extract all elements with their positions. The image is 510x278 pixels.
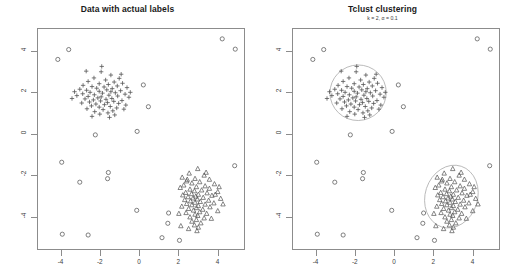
data-point-outliers bbox=[422, 211, 426, 215]
plot-canvas: Data with actual labels 420-2-4-4-2024 T… bbox=[0, 0, 510, 278]
data-point-outliers bbox=[177, 238, 181, 242]
x-axis-tick-label: 2 bbox=[170, 258, 186, 265]
x-axis-tick bbox=[433, 250, 434, 256]
x-axis-tick-label: 0 bbox=[131, 258, 147, 265]
x-axis-tick bbox=[394, 250, 395, 256]
data-point-cluster-2 bbox=[461, 198, 465, 202]
data-point-cluster-2 bbox=[184, 210, 188, 214]
data-point-cluster-1 bbox=[85, 107, 89, 111]
data-point-cluster-1 bbox=[78, 87, 82, 91]
panel-subtitle: k = 2, α = 0.1 bbox=[255, 15, 510, 21]
data-point-cluster-1 bbox=[357, 102, 361, 106]
data-point-cluster-2 bbox=[216, 189, 220, 193]
data-point-cluster-2 bbox=[192, 189, 196, 193]
data-point-cluster-1 bbox=[99, 70, 103, 74]
plot-area bbox=[38, 29, 244, 249]
data-point-cluster-1 bbox=[112, 99, 116, 103]
data-point-cluster-2 bbox=[449, 217, 453, 221]
data-point-cluster-1 bbox=[70, 96, 74, 100]
data-point-cluster-2 bbox=[190, 181, 194, 185]
data-point-cluster-2 bbox=[451, 166, 455, 170]
data-point-cluster-1 bbox=[346, 98, 350, 102]
x-axis-tick-label: 4 bbox=[465, 258, 481, 265]
data-point-cluster-2 bbox=[212, 201, 216, 205]
data-point-cluster-1 bbox=[360, 88, 364, 92]
data-point-cluster-1 bbox=[127, 95, 131, 99]
data-point-outliers bbox=[146, 105, 150, 109]
data-point-outliers bbox=[233, 47, 237, 51]
data-point-cluster-2 bbox=[195, 197, 199, 201]
plot-frame bbox=[37, 28, 245, 250]
data-point-cluster-1 bbox=[93, 109, 97, 113]
data-point-cluster-1 bbox=[90, 114, 94, 118]
data-point-cluster-2 bbox=[459, 170, 463, 174]
data-point-outliers bbox=[475, 37, 479, 41]
data-point-cluster-1 bbox=[378, 92, 382, 96]
data-point-cluster-1 bbox=[367, 99, 371, 103]
data-point-outliers bbox=[105, 177, 109, 181]
data-point-cluster-2 bbox=[197, 179, 201, 183]
data-point-cluster-1 bbox=[101, 107, 105, 111]
data-point-cluster-1 bbox=[342, 100, 346, 104]
data-point-cluster-1 bbox=[333, 87, 337, 91]
data-point-cluster-2 bbox=[459, 211, 463, 215]
data-point-cluster-1 bbox=[105, 88, 109, 92]
y-axis-tick bbox=[286, 51, 292, 52]
data-point-cluster-2 bbox=[206, 198, 210, 202]
data-point-outliers bbox=[488, 47, 492, 51]
data-point-cluster-2 bbox=[182, 183, 186, 187]
data-point-cluster-1 bbox=[115, 84, 119, 88]
data-point-cluster-1 bbox=[86, 79, 90, 83]
data-point-outliers bbox=[166, 221, 170, 225]
data-point-cluster-1 bbox=[123, 92, 127, 96]
data-point-cluster-1 bbox=[383, 90, 387, 94]
data-point-cluster-1 bbox=[89, 104, 93, 108]
data-point-outliers bbox=[401, 105, 405, 109]
x-axis-tick-label: 0 bbox=[386, 258, 402, 265]
x-axis-tick bbox=[139, 250, 140, 256]
data-point-cluster-1 bbox=[96, 96, 100, 100]
data-point-cluster-1 bbox=[81, 83, 85, 87]
data-point-outliers bbox=[60, 232, 64, 236]
data-point-outliers bbox=[360, 177, 364, 181]
data-point-cluster-1 bbox=[92, 76, 96, 80]
data-point-cluster-1 bbox=[113, 113, 117, 117]
data-point-cluster-2 bbox=[467, 182, 471, 186]
data-point-cluster-1 bbox=[350, 86, 354, 90]
data-point-cluster-1 bbox=[370, 106, 374, 110]
data-point-cluster-1 bbox=[361, 111, 365, 115]
data-point-cluster-1 bbox=[352, 82, 356, 86]
data-point-outliers bbox=[220, 37, 224, 41]
data-point-cluster-2 bbox=[443, 215, 447, 219]
data-point-cluster-2 bbox=[473, 196, 477, 200]
data-point-cluster-1 bbox=[109, 73, 113, 77]
y-axis-tick bbox=[31, 134, 37, 135]
data-point-cluster-1 bbox=[366, 109, 370, 113]
data-point-cluster-1 bbox=[111, 109, 115, 113]
data-point-cluster-2 bbox=[193, 176, 197, 180]
x-axis-tick-label: 4 bbox=[210, 258, 226, 265]
data-point-cluster-1 bbox=[125, 85, 129, 89]
data-point-cluster-1 bbox=[361, 82, 365, 86]
data-point-outliers bbox=[432, 238, 436, 242]
data-point-cluster-1 bbox=[371, 101, 375, 105]
data-point-cluster-2 bbox=[194, 217, 198, 221]
data-point-cluster-1 bbox=[120, 81, 124, 85]
data-point-cluster-2 bbox=[450, 197, 454, 201]
data-point-cluster-2 bbox=[196, 166, 200, 170]
data-point-cluster-2 bbox=[194, 184, 198, 188]
data-point-cluster-1 bbox=[97, 82, 101, 86]
data-point-cluster-1 bbox=[368, 113, 372, 117]
data-point-cluster-1 bbox=[106, 111, 110, 115]
data-point-cluster-2 bbox=[177, 211, 181, 215]
data-point-outliers bbox=[160, 236, 164, 240]
data-point-outliers bbox=[348, 133, 352, 137]
data-point-cluster-1 bbox=[110, 96, 114, 100]
x-axis-tick-label: 2 bbox=[425, 258, 441, 265]
data-point-cluster-2 bbox=[452, 179, 456, 183]
data-point-cluster-2 bbox=[435, 204, 439, 208]
data-point-outliers bbox=[56, 57, 60, 61]
data-point-cluster-1 bbox=[380, 85, 384, 89]
data-point-cluster-2 bbox=[199, 188, 203, 192]
panel-title: Tclust clustering bbox=[255, 4, 510, 14]
